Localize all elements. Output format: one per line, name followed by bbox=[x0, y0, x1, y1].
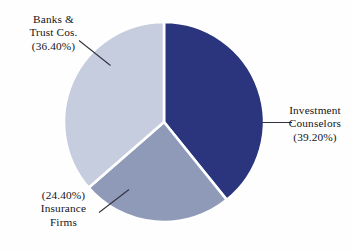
pie-label-investment-counselors: Investment Counselors (39.20%) bbox=[277, 104, 353, 144]
pie-label-banks-line1: Banks & bbox=[6, 13, 101, 26]
pie-label-insurance-line3: Firms bbox=[22, 216, 105, 229]
pie-label-investment-percent: (39.20%) bbox=[277, 131, 353, 144]
pie-label-banks-percent: (36.40%) bbox=[6, 40, 101, 53]
pie-label-insurance-firms: (24.40%) Insurance Firms bbox=[22, 189, 105, 229]
pie-label-investment-line2: Counselors bbox=[277, 117, 353, 130]
chart-canvas: Banks & Trust Cos. (36.40%) Investment C… bbox=[0, 0, 353, 250]
pie-label-banks-trust-cos: Banks & Trust Cos. (36.40%) bbox=[6, 13, 101, 53]
pie-label-banks-line2: Trust Cos. bbox=[6, 26, 101, 39]
pie-label-insurance-percent: (24.40%) bbox=[22, 189, 105, 202]
pie-label-insurance-line2: Insurance bbox=[22, 202, 105, 215]
pie-label-investment-line1: Investment bbox=[277, 104, 353, 117]
